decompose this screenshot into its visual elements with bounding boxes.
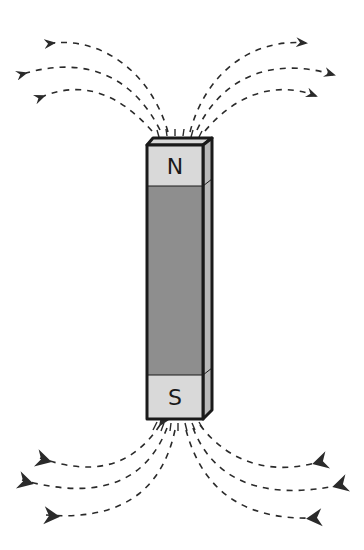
north-label: N <box>167 154 183 179</box>
north-pole-ticks <box>157 129 202 137</box>
field-lines-bottom-right <box>186 425 340 518</box>
field-lines-top-left <box>26 42 168 132</box>
field-lines-bottom-left <box>22 425 175 516</box>
south-label: S <box>168 385 182 410</box>
field-lines-top-right <box>190 43 334 132</box>
magnet-diagram: N S <box>0 0 364 550</box>
bar-magnet: N S <box>147 138 212 419</box>
south-pole-ticks <box>153 422 203 431</box>
arrowheads-bottom-left <box>16 449 61 525</box>
magnet-body <box>147 186 203 375</box>
